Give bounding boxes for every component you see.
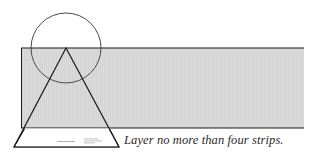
diagram-caption: Layer no more than four strips. [124,133,284,148]
layering-diagram [0,0,315,155]
fabric-strip [21,48,304,128]
